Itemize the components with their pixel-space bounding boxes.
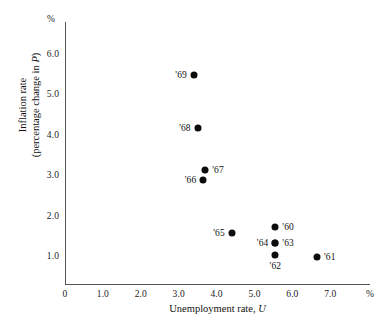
- phillips-curve-chart: % % 1.02.03.04.05.06.0 01.02.03.04.05.06…: [0, 0, 388, 331]
- data-point-label: '67: [212, 165, 224, 175]
- y-axis-unit-label: %: [47, 14, 55, 24]
- y-axis-line: [65, 22, 66, 285]
- x-tick-label: 4.0: [204, 289, 230, 299]
- x-axis-title-prefix: Unemployment rate,: [169, 303, 258, 314]
- data-point: [190, 72, 197, 79]
- data-point: [194, 124, 201, 131]
- x-axis-title-variable-u: U: [258, 303, 266, 314]
- data-point-label: '63: [282, 238, 294, 248]
- y-tick-label: 2.0: [33, 211, 59, 221]
- data-point: [272, 223, 279, 230]
- data-point-label: '68: [179, 123, 191, 133]
- data-point-label: '60: [282, 222, 294, 232]
- y-axis-title: Inflation rate (percentage change in P): [16, 10, 42, 200]
- data-point: [200, 177, 207, 184]
- y-axis-title-variable-p: P: [30, 56, 41, 62]
- x-tick-label: 7.0: [317, 289, 343, 299]
- data-point-label: '66: [185, 175, 197, 185]
- y-tick-label: 1.0: [33, 251, 59, 261]
- data-point-label: '65: [213, 228, 225, 238]
- x-axis-line: [65, 284, 370, 285]
- data-point: [202, 167, 209, 174]
- data-point-label: '61: [324, 252, 336, 262]
- data-point: [228, 229, 235, 236]
- y-axis-title-line1: Inflation rate: [16, 10, 29, 200]
- x-tick-label: 5.0: [242, 289, 268, 299]
- data-point: [272, 251, 279, 258]
- x-tick-label: 3.0: [166, 289, 192, 299]
- x-tick-label: 1.0: [90, 289, 116, 299]
- x-tick-label: 0: [52, 289, 78, 299]
- x-axis-unit-label: %: [366, 289, 374, 299]
- y-axis-title-line2-suffix: ): [30, 53, 41, 57]
- data-point-label: '69: [175, 70, 187, 80]
- data-point: [314, 254, 321, 261]
- x-tick-label: 2.0: [128, 289, 154, 299]
- x-tick-label: 6.0: [279, 289, 305, 299]
- data-point: [272, 239, 279, 246]
- data-point-label: '64: [257, 238, 269, 248]
- y-axis-title-line2: (percentage change in P): [29, 10, 42, 200]
- y-axis-title-line2-prefix: (percentage change in: [30, 63, 41, 158]
- data-point-label: '62: [270, 261, 282, 271]
- x-axis-title: Unemployment rate, U: [65, 303, 370, 314]
